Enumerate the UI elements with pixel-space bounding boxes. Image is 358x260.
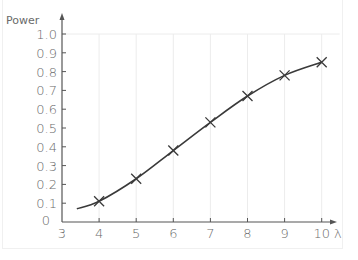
y-tick-label: 0.4 [36, 140, 57, 155]
x-tick-label: 6 [169, 226, 177, 241]
tick-labels: 00.10.20.30.40.50.60.70.80.91.0345678910 [36, 27, 330, 241]
y-axis-title: Power [6, 14, 40, 27]
y-tick-label: 0.9 [36, 46, 57, 61]
axes [60, 13, 338, 225]
y-tick-label: 0.7 [36, 83, 57, 98]
y-tick-label: 0.1 [36, 196, 57, 211]
x-tick-label: 3 [58, 226, 66, 241]
x-tick-label: 9 [280, 226, 288, 241]
y-axis-arrow-icon [60, 13, 65, 20]
y-tick-label: 0.5 [36, 121, 57, 136]
x-tick-label: 5 [132, 226, 140, 241]
y-tick-label: 0.2 [36, 177, 57, 192]
power-chart: 00.10.20.30.40.50.60.70.80.91.0345678910… [0, 0, 358, 260]
y-tick-label: 0.8 [36, 65, 57, 80]
x-tick-label: 10 [313, 226, 330, 241]
x-axis-title: λ [334, 226, 342, 241]
x-tick-label: 8 [243, 226, 251, 241]
y-tick-label: 0.6 [36, 102, 57, 117]
y-tick-label: 0 [42, 213, 50, 228]
y-tick-label: 1.0 [36, 27, 57, 42]
x-axis-arrow-icon [330, 220, 337, 225]
x-tick-label: 4 [95, 226, 103, 241]
grid-lines [62, 34, 340, 222]
x-tick-label: 7 [206, 226, 214, 241]
y-tick-label: 0.3 [36, 159, 57, 174]
